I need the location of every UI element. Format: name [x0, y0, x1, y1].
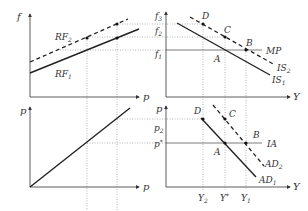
- p-horizontal-label: p: [143, 181, 150, 192]
- ad2-label: AD2: [264, 159, 283, 170]
- panel-bottom-right: p Y p2 p* D C B A IA AD2 AD1 Y2 Y* Y1: [154, 103, 301, 204]
- p-axis-label: p: [143, 91, 150, 102]
- point-b-label: B: [252, 130, 260, 140]
- 45-degree-line: [30, 108, 130, 187]
- is1-label: IS1: [271, 75, 286, 86]
- f1-label: f1: [154, 49, 162, 60]
- panel-top-left: f p RF2 RF1: [16, 11, 150, 102]
- point-a-label: A: [213, 147, 221, 157]
- p2-label: p2: [154, 123, 164, 134]
- ad1-curve: [201, 118, 256, 177]
- rf1-curve: [30, 29, 139, 73]
- p-vertical-label: p: [20, 105, 27, 116]
- point-c-label: C: [229, 109, 236, 119]
- point-d-label: D: [193, 106, 201, 116]
- f2-label: f2: [154, 26, 162, 37]
- mp-label: MP: [265, 46, 282, 56]
- rf1-label: RF1: [54, 69, 72, 80]
- ad1-label: AD1: [258, 175, 277, 186]
- f-axis-label: f: [16, 11, 23, 22]
- y-axis-label: Y: [293, 91, 301, 102]
- is2-label: IS2: [276, 63, 291, 74]
- four-quadrant-diagram: f p RF2 RF1 Y f3 f2 f1 D C B A MP IS2 IS…: [0, 0, 308, 211]
- guide-lines: [60, 24, 246, 211]
- point-a-label: A: [213, 54, 221, 64]
- ia-label: IA: [266, 139, 278, 149]
- y2-label: Y2: [198, 193, 208, 204]
- y-axis-label: Y: [293, 181, 301, 192]
- panel-bottom-left: p p: [20, 105, 150, 192]
- point-c-label: C: [224, 25, 231, 35]
- panel-top-right: Y f3 f2 f1 D C B A MP IS2 IS1: [154, 11, 301, 102]
- rf2-label: RF2: [54, 32, 72, 43]
- point-b-label: B: [245, 38, 253, 48]
- rf2-curve: [30, 19, 128, 62]
- y1-label: Y1: [241, 193, 251, 204]
- f3-label: f3: [154, 11, 162, 22]
- y-star-label: Y*: [220, 192, 229, 203]
- p-axis-label: p: [156, 103, 163, 114]
- point-d-label: D: [201, 11, 209, 21]
- p-star-label: p*: [154, 138, 163, 149]
